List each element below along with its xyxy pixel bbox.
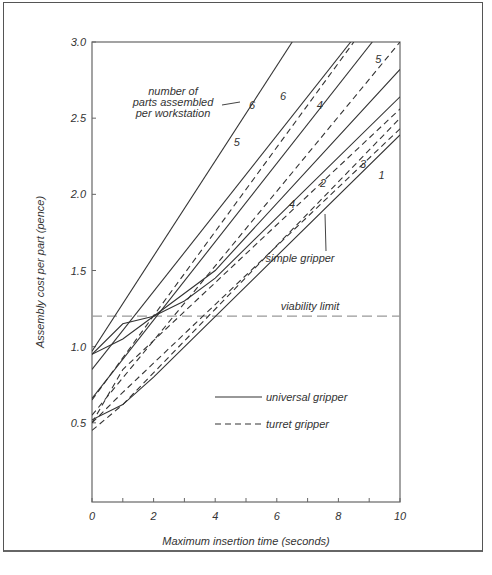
line-number-label: 6 xyxy=(249,99,256,111)
simple-gripper-leader xyxy=(325,214,326,251)
axes: 0.51.01.52.02.53.00246810Maximum inserti… xyxy=(34,36,407,547)
line-number-label: 5 xyxy=(375,53,382,65)
x-tick-label: 10 xyxy=(394,510,407,522)
y-tick-label: 2.5 xyxy=(70,112,87,124)
y-tick-label: 0.5 xyxy=(71,417,87,429)
x-tick-label: 4 xyxy=(212,510,218,522)
series-line xyxy=(92,109,400,423)
line-number-label: 5 xyxy=(234,136,241,148)
annotations: viability limit656453214number ofparts a… xyxy=(132,53,385,430)
x-tick-label: 2 xyxy=(150,510,157,522)
series-line xyxy=(92,42,351,370)
legend-label: turret gripper xyxy=(266,418,330,430)
line-chart: 0.51.01.52.02.53.00246810Maximum inserti… xyxy=(0,0,492,575)
y-axis-label: Assembly cost per part (pence) xyxy=(34,196,46,350)
x-tick-label: 0 xyxy=(89,510,96,522)
line-number-label: 6 xyxy=(280,90,287,102)
y-tick-label: 1.0 xyxy=(71,341,87,353)
line-number-label: 3 xyxy=(360,158,367,170)
viability-limit-label: viability limit xyxy=(281,300,341,312)
x-axis-label: Maximum insertion time (seconds) xyxy=(162,535,330,547)
y-tick-label: 2.0 xyxy=(70,188,87,200)
x-tick-label: 8 xyxy=(335,510,342,522)
parts-per-workstation-label: per workstation xyxy=(135,107,211,119)
y-tick-label: 1.5 xyxy=(71,265,87,277)
y-tick-label: 3.0 xyxy=(71,36,87,48)
line-number-label: 2 xyxy=(319,177,326,189)
parts-label-leader xyxy=(222,102,240,105)
line-number-label: 1 xyxy=(378,169,384,181)
series-line xyxy=(92,118,400,430)
line-number-label: 4 xyxy=(289,198,295,210)
series-line xyxy=(92,129,400,423)
series-line xyxy=(92,42,354,400)
simple-gripper-label: simple gripper xyxy=(265,252,335,264)
legend-label: universal gripper xyxy=(266,391,349,403)
x-tick-label: 6 xyxy=(274,510,281,522)
line-number-label: 4 xyxy=(317,99,323,111)
